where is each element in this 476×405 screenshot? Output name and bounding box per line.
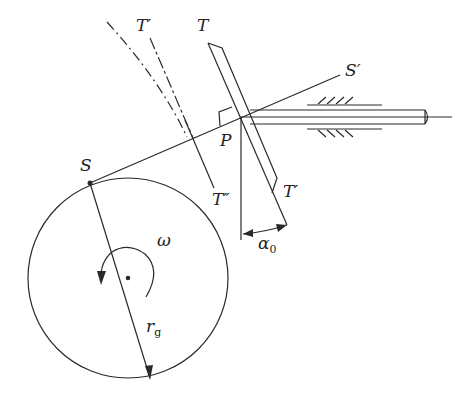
- diagram-drawing: [0, 0, 476, 405]
- center-point: [126, 276, 131, 281]
- label-omega: ω: [157, 232, 171, 249]
- point-s: [88, 181, 93, 186]
- radius-line: [90, 183, 150, 378]
- label-alpha0: α0: [258, 235, 276, 255]
- label-t-top: T: [197, 17, 208, 34]
- label-rg: rg: [146, 318, 161, 338]
- dashed-curve: [107, 22, 187, 137]
- label-t-prime-bottom: T′: [283, 183, 298, 200]
- label-p: P: [220, 132, 231, 149]
- label-t-prime-top: T′: [136, 17, 151, 34]
- label-s-prime: S′: [345, 62, 361, 79]
- label-t-double-prime: T″: [212, 191, 230, 208]
- diagram-canvas: T′ T S′ P S T″ T′ ω α0 rg: [0, 0, 476, 405]
- omega-arrowhead: [97, 271, 106, 285]
- alpha-arrowhead-right: [276, 224, 287, 232]
- omega-arc: [101, 247, 154, 297]
- radius-arrowhead: [145, 365, 153, 380]
- label-s: S: [80, 157, 92, 174]
- hatch-bottom: [318, 130, 353, 137]
- alpha-arrowhead-left: [243, 229, 253, 237]
- line-t-double-prime: [185, 120, 214, 188]
- line-of-action: [90, 75, 340, 183]
- hatch-top: [318, 97, 353, 104]
